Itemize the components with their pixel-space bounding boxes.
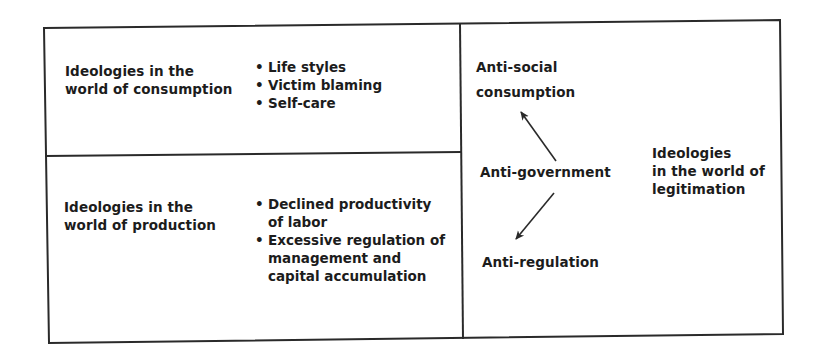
vertical-divider	[460, 24, 463, 339]
consumption-title-line: world of consumption	[65, 80, 232, 98]
arrow-to-anti-regulation	[516, 193, 554, 239]
consumption-title-line: Ideologies in the	[65, 62, 232, 80]
node-anti-government: Anti-government	[480, 163, 611, 181]
list-item: Excessive regulation of management and c…	[255, 231, 445, 285]
production-items: Declined productivity of labor Excessive…	[255, 195, 445, 285]
ideologies-diagram: Ideologies in the world of consumption L…	[0, 0, 822, 354]
list-item-line: Declined productivity	[268, 195, 445, 213]
node-anti-social-consumption: Anti-social consumption	[476, 55, 575, 105]
horizontal-divider	[45, 152, 461, 156]
list-item-line: Excessive regulation of	[268, 231, 445, 249]
production-title: Ideologies in the world of production	[64, 198, 216, 234]
legitimation-title-line: in the world of	[652, 162, 765, 180]
legitimation-title-line: Ideologies	[652, 144, 765, 162]
legitimation-title: Ideologies in the world of legitimation	[652, 144, 765, 198]
production-title-line: world of production	[64, 216, 216, 234]
node-line: Anti-social	[476, 55, 575, 80]
list-item: Victim blaming	[255, 76, 382, 94]
legitimation-title-line: legitimation	[652, 180, 765, 198]
node-anti-regulation: Anti-regulation	[482, 253, 599, 271]
list-item-line: capital accumulation	[268, 267, 445, 285]
list-item: Self-care	[255, 94, 382, 112]
consumption-title: Ideologies in the world of consumption	[65, 62, 232, 98]
list-item: Declined productivity of labor	[255, 195, 445, 231]
production-title-line: Ideologies in the	[64, 198, 216, 216]
list-item-line: management and	[268, 249, 445, 267]
list-item: Life styles	[255, 58, 382, 76]
consumption-items: Life styles Victim blaming Self-care	[255, 58, 382, 112]
list-item-line: of labor	[268, 213, 445, 231]
arrow-to-anti-social-consumption	[521, 112, 556, 161]
node-line: consumption	[476, 80, 575, 105]
